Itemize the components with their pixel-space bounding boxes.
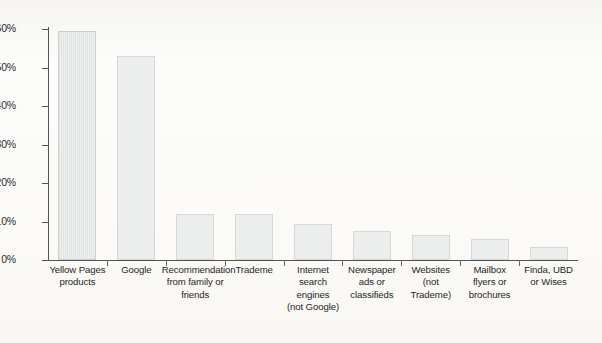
bar-6 <box>353 231 391 260</box>
y-axis-tick <box>42 145 48 146</box>
x-axis-label-line: (not Google) <box>280 301 347 313</box>
x-axis-label-line: friends <box>162 289 229 301</box>
x-axis-label: Finda, UBDor Wises <box>515 264 582 289</box>
bar-5 <box>294 224 332 260</box>
y-axis-tick <box>42 222 48 223</box>
bar-3 <box>176 214 214 260</box>
x-axis-labels: Yellow PagesproductsGoogleRecommendation… <box>48 264 578 340</box>
x-axis-label-line: brochures <box>456 289 523 301</box>
y-axis-tick-label: 10% <box>0 215 16 227</box>
x-axis-label-line: Finda, UBD <box>515 264 582 276</box>
x-axis-label-line: Trademe) <box>397 289 464 301</box>
y-axis-tick-label: 0% <box>0 253 16 265</box>
x-axis-label-line: Trademe <box>221 264 288 276</box>
x-axis-label-line: (not <box>397 276 464 288</box>
x-axis-label-line: Yellow Pages <box>44 264 111 276</box>
x-axis-label: Websites(notTrademe) <box>397 264 464 301</box>
x-axis-label: Newspaperads orclassifieds <box>338 264 405 301</box>
bar-1 <box>58 31 96 260</box>
bar-8 <box>471 239 509 260</box>
y-axis-tick <box>42 68 48 69</box>
x-axis-label-line: Internet <box>280 264 347 276</box>
x-axis-label: Yellow Pagesproducts <box>44 264 111 289</box>
y-axis-tick-label: 40% <box>0 99 16 111</box>
x-axis-label-line: from family or <box>162 276 229 288</box>
y-axis-tick <box>42 183 48 184</box>
x-axis-label-line: Google <box>103 264 170 276</box>
x-axis-label: Mailboxflyers orbrochures <box>456 264 523 301</box>
x-axis-label-line: ads or <box>338 276 405 288</box>
x-axis-label-line: Websites <box>397 264 464 276</box>
x-axis-label-line: Mailbox <box>456 264 523 276</box>
bar-7 <box>412 235 450 260</box>
x-axis-label-line: Recommendation <box>162 264 229 276</box>
x-axis-label-line: classifieds <box>338 289 405 301</box>
x-axis-label-line: engines <box>280 289 347 301</box>
bar-9 <box>530 247 568 260</box>
y-axis-tick-label: 20% <box>0 176 16 188</box>
bar-4 <box>235 214 273 260</box>
y-axis-tick <box>42 106 48 107</box>
x-axis-label-line: search <box>280 276 347 288</box>
x-axis-label: Internetsearchengines(not Google) <box>280 264 347 314</box>
y-axis-tick-label: 50% <box>0 61 16 73</box>
x-axis-label-line: or Wises <box>515 276 582 288</box>
x-axis-label-line: products <box>44 276 111 288</box>
x-axis-label: Google <box>103 264 170 276</box>
x-axis-line <box>48 260 578 261</box>
x-axis-label: Trademe <box>221 264 288 276</box>
bar-chart: 60%50%40%30%20%10%0% Yellow Pagesproduct… <box>0 0 602 343</box>
plot-area: 60%50%40%30%20%10%0% <box>48 29 578 260</box>
bar-2 <box>117 56 155 260</box>
y-axis-tick <box>42 260 48 261</box>
y-axis-tick-label: 60% <box>0 22 16 34</box>
x-axis-label-line: flyers or <box>456 276 523 288</box>
x-axis-label: Recommendationfrom family orfriends <box>162 264 229 301</box>
y-axis-tick-label: 30% <box>0 138 16 150</box>
x-axis-label-line: Newspaper <box>338 264 405 276</box>
y-axis-tick <box>42 29 48 30</box>
